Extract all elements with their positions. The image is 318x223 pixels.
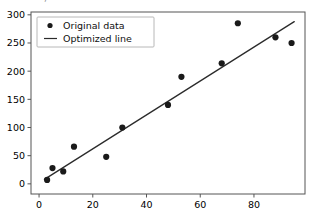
scatter-plot-canvas: 020406080 050100150200250300 Original da… xyxy=(0,0,318,223)
data-point xyxy=(103,154,109,160)
legend-marker-dot xyxy=(47,23,52,28)
data-point xyxy=(235,20,241,26)
legend-label-original-data: Original data xyxy=(63,20,125,31)
data-point xyxy=(49,165,55,171)
data-point xyxy=(219,60,225,66)
data-point xyxy=(60,168,66,174)
legend[interactable]: Original data Optimized line xyxy=(37,17,154,47)
y-tick-label: 0 xyxy=(19,178,25,189)
y-tick-label: 150 xyxy=(7,94,25,105)
x-tick-label: 60 xyxy=(194,199,206,210)
data-point xyxy=(288,40,294,46)
chart-figure: ─ ─ ── ─, ─ ── 020406080 050100150200250… xyxy=(0,0,318,223)
y-tick-label: 250 xyxy=(7,37,25,48)
y-axis-ticks: 050100150200250300 xyxy=(7,9,31,189)
y-tick-label: 50 xyxy=(13,150,25,161)
y-tick-label: 200 xyxy=(7,66,25,77)
data-point xyxy=(272,34,278,40)
x-axis-ticks: 020406080 xyxy=(36,194,260,210)
x-tick-label: 20 xyxy=(87,199,99,210)
x-tick-label: 80 xyxy=(248,199,260,210)
data-point xyxy=(165,102,171,108)
clipped-header-text: ─ ─ ── ─, ─ ── xyxy=(6,0,71,3)
data-point xyxy=(71,144,77,150)
x-tick-label: 0 xyxy=(36,199,42,210)
data-point xyxy=(119,124,125,130)
y-tick-label: 100 xyxy=(7,122,25,133)
y-tick-label: 300 xyxy=(7,9,25,20)
data-point xyxy=(44,177,50,183)
x-tick-label: 40 xyxy=(140,199,152,210)
legend-label-optimized-line: Optimized line xyxy=(63,33,132,44)
data-point xyxy=(178,74,184,80)
